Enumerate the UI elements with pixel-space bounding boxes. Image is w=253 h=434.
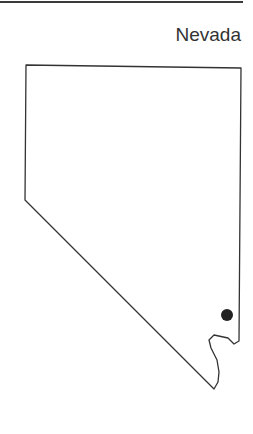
- state-outline: [25, 65, 241, 389]
- nevada-map: [0, 0, 253, 434]
- location-marker: [221, 309, 233, 321]
